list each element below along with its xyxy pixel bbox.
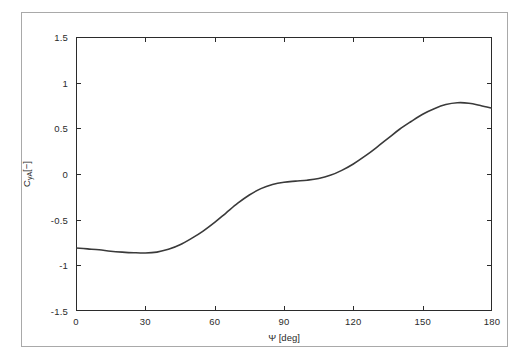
ytick-label-5: -0.5 — [40, 214, 68, 225]
xtick-label-1: 0 — [73, 316, 78, 327]
ytick-label-1: 1.5 — [40, 32, 68, 43]
x-axis-label: Ψ [deg] — [268, 332, 300, 343]
figure-container: 1.5 1 0.5 0 -0.5 -1 -1.5 0 30 60 90 120 … — [0, 0, 526, 363]
ytick-label-2: 1 — [40, 77, 68, 88]
xtick-label-6: 150 — [414, 316, 430, 327]
y-axis-label-unit: [−] — [21, 161, 32, 172]
plot-svg — [76, 37, 492, 311]
xtick-label-7: 180 — [484, 316, 500, 327]
xtick-label-3: 60 — [209, 316, 220, 327]
y-axis-label: CyA[−] — [21, 161, 32, 187]
xtick-label-2: 30 — [140, 316, 151, 327]
plot-area — [76, 37, 492, 311]
ytick-label-6: -1 — [40, 260, 68, 271]
xtick-label-5: 120 — [345, 316, 361, 327]
xtick-label-4: 90 — [279, 316, 290, 327]
data-line-0 — [76, 103, 492, 253]
ytick-label-3: 0.5 — [40, 123, 68, 134]
axes-frame — [77, 38, 492, 311]
y-axis-label-sub: yA — [26, 172, 33, 180]
ytick-label-4: 0 — [40, 169, 68, 180]
ytick-label-7: -1.5 — [40, 306, 68, 317]
y-axis-label-main: C — [21, 180, 32, 187]
